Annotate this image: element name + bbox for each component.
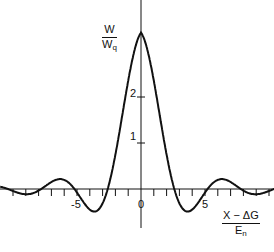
x-label-denominator: En [222,224,260,238]
x-tick-label-0: 0 [138,199,144,210]
curve-line [0,33,274,212]
axes [0,0,274,228]
x-tick-label-5: 5 [202,199,208,210]
x-axis-label: X − ΔG En [222,210,260,238]
y-tick-label-1: 1 [130,131,136,142]
y-label-denominator: Wq [102,38,117,52]
x-tick-label-neg5: -5 [71,199,81,210]
x-label-numerator: X − ΔG [222,210,260,224]
y-label-numerator: W [102,24,117,38]
y-axis-label: W Wq [102,24,117,52]
y-tick-label-2: 2 [130,88,136,99]
